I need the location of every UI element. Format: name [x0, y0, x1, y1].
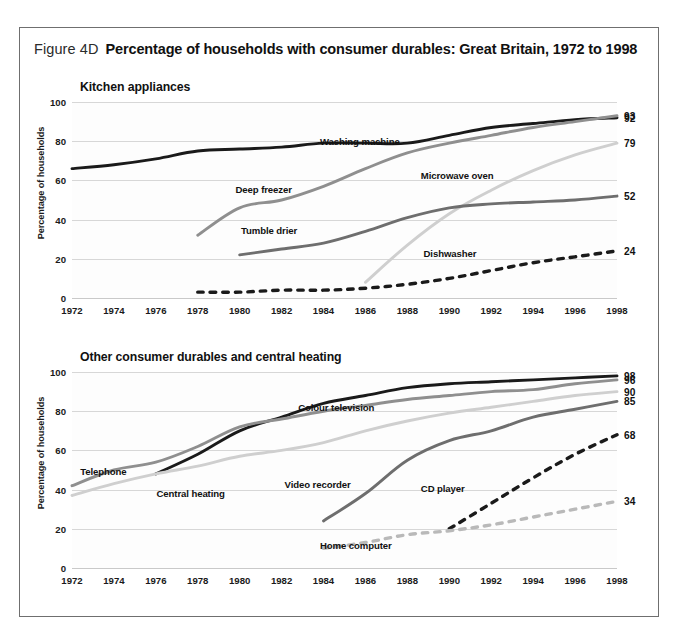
plot-area-other: 0204060801001972197419761978198019821984… — [72, 372, 617, 568]
y-axis-title-top: Percentage of households — [36, 118, 46, 248]
figure-frame: Figure 4DPercentage of households with c… — [19, 27, 659, 617]
series-label-video-recorder: Video recorder — [285, 479, 351, 490]
y-axis-tick-40: 40 — [55, 484, 66, 495]
y-axis-tick-80: 80 — [55, 136, 66, 147]
x-axis-tick-1986: 1986 — [355, 305, 376, 316]
x-axis-tick-1990: 1990 — [439, 575, 460, 586]
series-label-deep-freezer: Deep freezer — [236, 184, 292, 195]
x-axis-tick-1994: 1994 — [522, 575, 543, 586]
x-axis-tick-1972: 1972 — [61, 575, 82, 586]
x-axis-tick-1988: 1988 — [397, 305, 418, 316]
x-axis-tick-1984: 1984 — [313, 305, 334, 316]
end-value-label-deep-freezer: 93 — [624, 110, 635, 121]
plot-area-kitchen: 0204060801001972197419761978198019821984… — [72, 102, 617, 298]
x-axis-tick-1992: 1992 — [481, 305, 502, 316]
end-value-label-cd-player: 68 — [624, 429, 635, 440]
end-value-label-microwave-oven: 79 — [624, 138, 635, 149]
x-axis-tick-1988: 1988 — [397, 575, 418, 586]
x-axis-tick-1974: 1974 — [103, 575, 124, 586]
y-axis-tick-20: 20 — [55, 253, 66, 264]
y-axis-tick-20: 20 — [55, 523, 66, 534]
gridline-0 — [72, 298, 617, 299]
x-axis-tick-1994: 1994 — [522, 305, 543, 316]
series-label-washing-machine: Washing machine — [320, 136, 400, 147]
x-axis-tick-1976: 1976 — [145, 305, 166, 316]
series-lines — [72, 102, 617, 298]
x-axis-tick-1982: 1982 — [271, 305, 292, 316]
y-axis-tick-0: 0 — [61, 563, 66, 574]
end-value-label-video-recorder: 85 — [624, 396, 635, 407]
x-axis-tick-1976: 1976 — [145, 575, 166, 586]
chart-panel-kitchen: Kitchen appliances Percentage of househo… — [20, 80, 658, 345]
series-label-tumble-drier: Tumble drier — [241, 225, 297, 236]
chart-panel-other: Other consumer durables and central heat… — [20, 350, 658, 615]
x-axis-tick-1982: 1982 — [271, 575, 292, 586]
x-axis-tick-1980: 1980 — [229, 305, 250, 316]
figure-number: Figure 4D — [34, 41, 99, 57]
page-title: Percentage of households with consumer d… — [106, 41, 638, 57]
x-axis-tick-1996: 1996 — [564, 305, 585, 316]
x-axis-tick-1974: 1974 — [103, 305, 124, 316]
series-label-home-computer: Home computer — [320, 540, 392, 551]
x-axis-tick-1984: 1984 — [313, 575, 334, 586]
y-axis-tick-80: 80 — [55, 406, 66, 417]
series-line-dishwasher — [198, 251, 617, 292]
y-axis-title-bottom: Percentage of households — [36, 388, 46, 518]
gridline-0 — [72, 568, 617, 569]
series-line-video-recorder — [324, 401, 617, 521]
y-axis-tick-40: 40 — [55, 214, 66, 225]
series-label-microwave-oven: Microwave oven — [421, 170, 494, 181]
end-value-label-telephone: 96 — [624, 374, 635, 385]
series-line-telephone — [72, 380, 617, 486]
y-axis-tick-100: 100 — [50, 97, 66, 108]
series-label-central-heating: Central heating — [156, 488, 224, 499]
end-value-label-tumble-drier: 52 — [624, 191, 635, 202]
x-axis-tick-1986: 1986 — [355, 575, 376, 586]
series-line-cd-player — [449, 435, 617, 529]
x-axis-tick-1978: 1978 — [187, 575, 208, 586]
end-value-label-home-computer: 34 — [624, 496, 635, 507]
series-label-telephone: Telephone — [80, 466, 126, 477]
series-label-cd-player: CD player — [421, 483, 465, 494]
y-axis-tick-0: 0 — [61, 293, 66, 304]
y-axis-tick-60: 60 — [55, 445, 66, 456]
series-label-colour-television: Colour television — [298, 402, 374, 413]
series-line-microwave-oven — [365, 143, 617, 282]
x-axis-tick-1990: 1990 — [439, 305, 460, 316]
x-axis-tick-1998: 1998 — [606, 575, 627, 586]
end-value-label-dishwasher: 24 — [624, 245, 635, 256]
series-label-dishwasher: Dishwasher — [424, 248, 477, 259]
x-axis-tick-1992: 1992 — [481, 575, 502, 586]
figure-title-row: Figure 4DPercentage of households with c… — [34, 40, 650, 62]
y-axis-tick-60: 60 — [55, 175, 66, 186]
panel-title-other: Other consumer durables and central heat… — [80, 350, 342, 364]
x-axis-tick-1996: 1996 — [564, 575, 585, 586]
x-axis-tick-1998: 1998 — [606, 305, 627, 316]
panel-title-kitchen: Kitchen appliances — [80, 80, 190, 94]
y-axis-tick-100: 100 — [50, 367, 66, 378]
x-axis-tick-1980: 1980 — [229, 575, 250, 586]
x-axis-tick-1978: 1978 — [187, 305, 208, 316]
x-axis-tick-1972: 1972 — [61, 305, 82, 316]
